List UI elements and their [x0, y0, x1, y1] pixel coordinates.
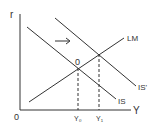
is-lm-diagram: r Y 0 LM IS' IS 0 Y₀ Y₁ — [0, 0, 159, 130]
y1-tick-label: Y₁ — [96, 115, 104, 122]
is-curve — [27, 27, 116, 99]
y0-tick-label: Y₀ — [74, 115, 82, 122]
x-axis-label: Y — [133, 105, 140, 116]
lm-curve — [29, 38, 124, 102]
y-axis-label: r — [10, 9, 14, 20]
lm-label: LM — [127, 34, 138, 43]
shift-arrow-icon — [55, 38, 70, 44]
is-label: IS — [118, 97, 126, 106]
equilibrium-label: 0 — [75, 57, 80, 67]
origin-label: 0 — [14, 112, 19, 122]
is-prime-label: IS' — [138, 83, 148, 92]
